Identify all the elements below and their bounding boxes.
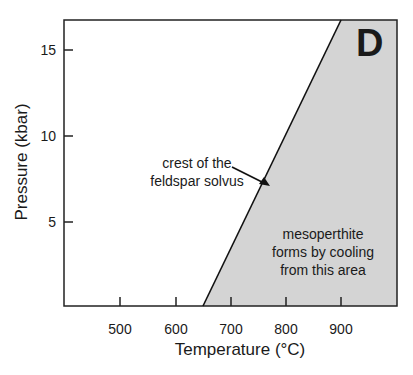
x-tick-700: 700	[211, 321, 251, 337]
panel-label: D	[356, 22, 383, 65]
x-tick-900: 900	[321, 321, 361, 337]
x-tick-600: 600	[156, 321, 196, 337]
x-axis-label: Temperature (°C)	[150, 340, 330, 360]
annotation-line: forms by cooling	[258, 243, 388, 261]
mesoperthite-annotation: mesoperthite forms by cooling from this …	[258, 225, 388, 279]
y-axis-ticks	[64, 50, 73, 222]
x-tick-500: 500	[100, 321, 140, 337]
y-tick-10: 10	[26, 128, 56, 144]
y-tick-15: 15	[26, 42, 56, 58]
annotation-line: feldspar solvus	[117, 172, 277, 190]
x-tick-800: 800	[266, 321, 306, 337]
y-tick-5: 5	[26, 214, 56, 230]
annotation-line: mesoperthite	[258, 225, 388, 243]
annotation-line: from this area	[258, 261, 388, 279]
y-axis-label: Pressure (kbar)	[12, 102, 32, 222]
solvus-annotation: crest of the feldspar solvus	[117, 154, 277, 190]
annotation-line: crest of the	[117, 154, 277, 172]
